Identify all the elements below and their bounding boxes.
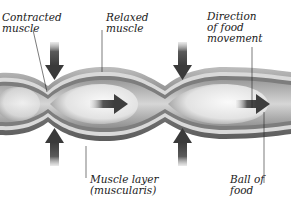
squeeze-arrow-up-1 (45, 128, 64, 166)
label-contracted-muscle: Contracted muscle (2, 12, 62, 34)
label-ball-of-food: Ball of food (230, 174, 264, 196)
label-muscle-layer: Muscle layer (muscularis) (90, 174, 158, 196)
peristalsis-diagram: Contracted muscle Relaxed muscle Directi… (0, 0, 291, 200)
label-direction-of-food: Direction of food movement (207, 11, 263, 44)
squeeze-arrow-up-2 (173, 128, 192, 166)
label-relaxed-muscle: Relaxed muscle (106, 12, 149, 34)
squeeze-arrow-down-1 (45, 42, 64, 80)
